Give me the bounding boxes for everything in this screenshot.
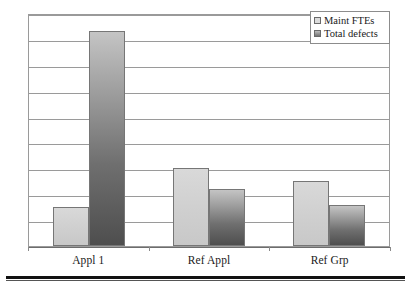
bar[interactable]	[53, 207, 89, 246]
bar-group	[149, 15, 269, 246]
bottom-divider-rule-thin	[6, 280, 405, 281]
x-axis-tick	[28, 247, 29, 251]
legend-item: Maint FTEs	[314, 14, 386, 27]
legend-label: Maint FTEs	[324, 15, 374, 27]
bar-chart-figure: Appl 1Ref ApplRef Grp Maint FTEs Total d…	[0, 0, 411, 286]
x-axis-label: Appl 1	[28, 251, 149, 271]
x-axis-label: Ref Grp	[269, 251, 390, 271]
legend: Maint FTEs Total defects	[310, 11, 390, 44]
legend-swatch-total-defects-icon	[314, 30, 321, 37]
x-axis-tick	[390, 247, 391, 251]
bottom-divider-rule	[6, 276, 405, 279]
x-axis-tick	[149, 247, 150, 251]
bar[interactable]	[293, 181, 329, 246]
bar[interactable]	[89, 31, 125, 246]
plot-area	[28, 14, 390, 247]
bar-group	[269, 15, 389, 246]
x-axis-labels: Appl 1Ref ApplRef Grp	[28, 251, 390, 271]
legend-item: Total defects	[314, 27, 386, 40]
bar[interactable]	[329, 205, 365, 246]
legend-label: Total defects	[324, 28, 378, 40]
bar-series-container	[29, 15, 389, 246]
x-axis-line	[28, 247, 390, 248]
legend-swatch-maint-ftes-icon	[314, 17, 321, 24]
bar[interactable]	[209, 189, 245, 246]
bar[interactable]	[173, 168, 209, 246]
x-axis-tick	[269, 247, 270, 251]
bar-group	[29, 15, 149, 246]
x-axis-label: Ref Appl	[149, 251, 270, 271]
